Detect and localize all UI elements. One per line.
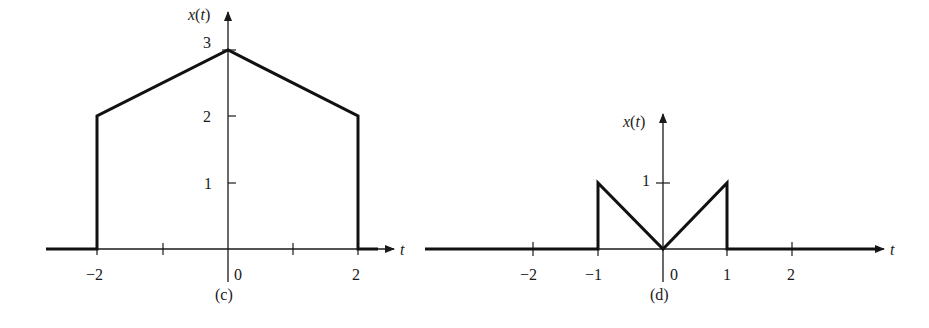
y-ticks [222,50,236,183]
x-tick-label-2: 2 [352,266,360,283]
x-tick-label-0: 0 [670,266,678,283]
y-tick-label-2: 2 [203,108,211,125]
x-tick-label-0: 0 [234,266,242,283]
y-tick-label-1: 1 [204,175,212,192]
x-tick-label-neg2: −2 [520,266,537,283]
y-axis-label: x(t) [187,6,210,24]
x-tick-label-2: 2 [787,266,795,283]
panel-caption-c: (c) [215,286,233,304]
plot-d: x(t) t 1 −2 −1 0 1 2 (d) [425,113,895,304]
x-tick-label-1: 1 [723,266,731,283]
signal-curve [425,183,880,249]
panel-caption-d: (d) [650,286,669,304]
y-axis-label: x(t) [622,113,645,131]
plot-c: x(t) t 3 2 1 −2 0 2 (c) [46,6,405,304]
x-axis-label: t [890,241,895,258]
x-tick-label-neg2: −2 [86,266,103,283]
y-tick-label-3: 3 [203,34,211,51]
figure: x(t) t 3 2 1 −2 0 2 (c) x(t) t 1 −2 −1 0… [0,0,929,328]
x-tick-label-neg1: −1 [585,266,602,283]
x-axis-label: t [400,241,405,258]
y-tick-label-1: 1 [642,172,650,189]
signal-curve [46,50,378,249]
